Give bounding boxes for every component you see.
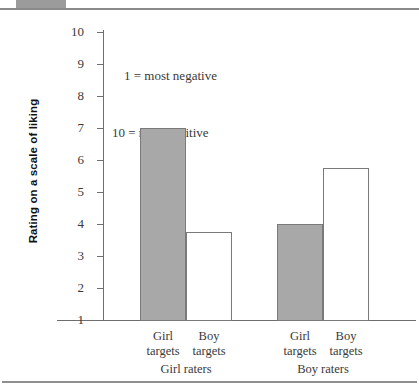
x-label-girl-raters-boy-targets: Boy targets [178, 329, 240, 358]
x-label-line-1: Boy [336, 329, 357, 343]
y-tick-6 [97, 160, 104, 161]
y-tick-label-1: 1 [60, 313, 84, 326]
y-tick-label-10: 10 [60, 25, 84, 38]
y-tick-label-4: 4 [60, 217, 84, 230]
y-tick-4 [97, 224, 104, 225]
bar-boy-raters-boy-targets [323, 168, 369, 321]
x-label-line-2: targets [192, 344, 225, 358]
x-label-boy-raters-boy-targets: Boy targets [315, 329, 377, 358]
y-tick-8 [97, 96, 104, 97]
y-tick-label-2: 2 [60, 281, 84, 294]
footer-rule [2, 381, 417, 383]
y-tick-label-7: 7 [60, 121, 84, 134]
x-label-line-2: targets [283, 344, 316, 358]
bar-chart: Rating on a scale of liking 10 9 8 7 6 5… [0, 0, 419, 391]
y-tick-2 [97, 288, 104, 289]
y-tick-label-6: 6 [60, 153, 84, 166]
x-label-line-2: targets [329, 344, 362, 358]
bar-girl-raters-boy-targets [186, 232, 232, 321]
x-label-line-1: Girl [290, 329, 310, 343]
x-label-line-1: Girl [153, 329, 173, 343]
bar-girl-raters-girl-targets [140, 128, 186, 321]
y-tick-9 [97, 64, 104, 65]
y-tick-label-9: 9 [60, 57, 84, 70]
group-label-boy-raters: Boy raters [258, 362, 388, 376]
y-tick-10 [97, 32, 104, 33]
y-tick-3 [97, 256, 104, 257]
y-tick-label-8: 8 [60, 89, 84, 102]
y-tick-label-5: 5 [60, 185, 84, 198]
x-label-line-2: targets [146, 344, 179, 358]
x-label-line-1: Boy [199, 329, 220, 343]
y-tick-7 [97, 128, 104, 129]
y-axis-line [103, 30, 104, 321]
bar-boy-raters-girl-targets [277, 224, 323, 321]
group-label-girl-raters: Girl raters [121, 362, 251, 376]
y-tick-label-3: 3 [60, 249, 84, 262]
y-axis-title: Rating on a scale of liking [27, 76, 39, 266]
scale-note-line-1: 1 = most negative [124, 66, 217, 85]
y-tick-5 [97, 192, 104, 193]
